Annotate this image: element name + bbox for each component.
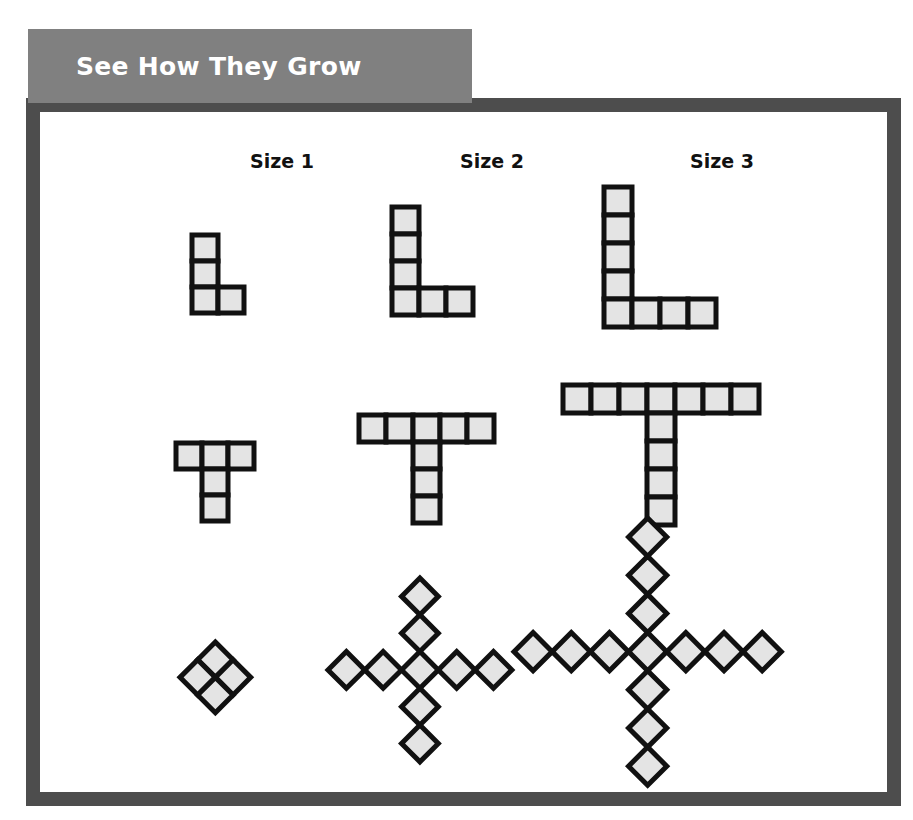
column-header-size-2: Size 2 bbox=[460, 150, 524, 172]
frame-interior bbox=[40, 112, 887, 792]
column-header-size-3: Size 3 bbox=[690, 150, 754, 172]
content-frame bbox=[26, 98, 901, 806]
column-header-row: Size 1 Size 2 Size 3 bbox=[60, 150, 870, 176]
diagram-page: See How They Grow Size 1 Size 2 Size 3 bbox=[0, 0, 913, 820]
column-header-size-1: Size 1 bbox=[250, 150, 314, 172]
page-title: See How They Grow bbox=[76, 52, 362, 81]
title-banner: See How They Grow bbox=[28, 29, 472, 103]
